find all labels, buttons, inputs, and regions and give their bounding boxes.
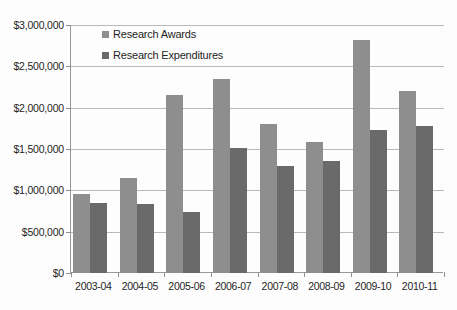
bar-chart: $0$500,000$1,000,000$1,500,000$2,000,000… (0, 0, 457, 310)
bar (306, 142, 323, 273)
y-axis-tick-label: $2,500,000 (0, 60, 64, 72)
y-axis-tick-label: $2,000,000 (0, 102, 64, 114)
x-axis-tick-label: 2003-04 (70, 280, 117, 292)
x-axis-tick (118, 272, 119, 277)
x-axis-tick-label: 2009-10 (350, 280, 397, 292)
y-axis-tick-label: $1,500,000 (0, 143, 64, 155)
bar (213, 79, 230, 273)
legend-label: Research Expenditures (113, 49, 223, 61)
x-axis-tick (211, 272, 212, 277)
bar (277, 166, 294, 273)
bar (230, 148, 247, 273)
y-axis-labels: $0$500,000$1,000,000$1,500,000$2,000,000… (0, 0, 64, 310)
bar-group (397, 25, 444, 273)
y-axis-tick-label: $0 (0, 267, 64, 279)
bar (183, 212, 200, 273)
y-axis-tick-label: $3,000,000 (0, 19, 64, 31)
x-axis-tick-label: 2007-08 (257, 280, 304, 292)
x-axis-tick (258, 272, 259, 277)
y-axis-tick-label: $1,000,000 (0, 184, 64, 196)
legend-swatch-icon (102, 31, 109, 38)
y-axis-tick-label: $500,000 (0, 226, 64, 238)
x-axis-tick-label: 2010-11 (396, 280, 443, 292)
bar (120, 178, 137, 273)
x-axis-tick (397, 272, 398, 277)
chart-legend: Research Awards Research Expenditures (102, 28, 302, 70)
bar (323, 161, 340, 273)
bar (137, 204, 154, 273)
bar (416, 126, 433, 273)
x-axis-tick (351, 272, 352, 277)
x-axis-labels: 2003-042004-052005-062006-072007-082008-… (70, 280, 443, 300)
bar (166, 95, 183, 273)
x-axis-tick (71, 272, 72, 277)
x-axis-tick (444, 272, 445, 277)
bar-group (304, 25, 351, 273)
bar (260, 124, 277, 273)
legend-swatch-icon (102, 52, 109, 59)
x-axis-tick-label: 2004-05 (117, 280, 164, 292)
bar (73, 194, 90, 273)
x-axis-tick-label: 2006-07 (210, 280, 257, 292)
legend-item-research-expenditures: Research Expenditures (102, 49, 302, 61)
bar (353, 40, 370, 273)
x-axis-tick-label: 2008-09 (303, 280, 350, 292)
x-axis-tick (304, 272, 305, 277)
bar (370, 130, 387, 273)
x-axis-tick (164, 272, 165, 277)
bar (399, 91, 416, 273)
bar (90, 203, 107, 273)
legend-label: Research Awards (113, 28, 196, 40)
legend-item-research-awards: Research Awards (102, 28, 302, 40)
bar-group (351, 25, 398, 273)
x-axis-tick-label: 2005-06 (163, 280, 210, 292)
